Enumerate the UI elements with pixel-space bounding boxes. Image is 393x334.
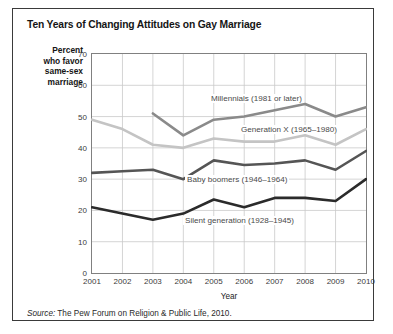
series-label-baby-boomers: Baby boomers (1946–1964) xyxy=(185,175,289,184)
x-tick-label: 2005 xyxy=(205,277,223,286)
page-title: Ten Years of Changing Attitudes on Gay M… xyxy=(27,19,261,30)
y-axis-title-line: marriage xyxy=(21,77,83,88)
source-note: Source: The Pew Forum on Religion & Publ… xyxy=(27,309,232,318)
source-text: The Pew Forum on Religion & Public Life,… xyxy=(57,309,231,318)
x-axis-title: Year xyxy=(91,292,367,301)
y-axis-title-line: same-sex xyxy=(21,66,83,77)
source-prefix: Source: xyxy=(27,309,55,318)
x-tick-label: 2009 xyxy=(327,277,345,286)
series-label-millennials: Millennials (1981 or later) xyxy=(209,94,304,103)
y-tick-label: 20 xyxy=(78,206,87,215)
y-axis-title-line: who favor xyxy=(21,56,83,67)
y-tick-label: 60 xyxy=(78,81,87,90)
x-tick-label: 2004 xyxy=(174,277,192,286)
y-axis-title-line: Percent xyxy=(21,45,83,56)
chart-lines xyxy=(91,53,367,274)
plot-area: 010203040506070 200120022003200420052006… xyxy=(91,53,367,274)
x-tick-label: 2006 xyxy=(235,277,253,286)
y-tick-label: 10 xyxy=(78,237,87,246)
series-label-generation-x: Generation X (1965–1980) xyxy=(239,125,339,134)
series-label-silent-generation: Silent generation (1928–1945) xyxy=(183,216,296,225)
y-tick-label: 40 xyxy=(78,143,87,152)
y-tick-label: 50 xyxy=(78,112,87,121)
x-tick-label: 2003 xyxy=(144,277,162,286)
y-tick-label: 30 xyxy=(78,175,87,184)
x-tick-label: 2008 xyxy=(296,277,314,286)
chart-figure: Ten Years of Changing Attitudes on Gay M… xyxy=(12,8,374,321)
y-axis-title: Percentwho favorsame-sexmarriage xyxy=(21,45,83,87)
x-tick-label: 2010 xyxy=(357,277,375,286)
x-tick-label: 2001 xyxy=(83,277,101,286)
y-tick-label: 70 xyxy=(78,50,87,59)
x-tick-label: 2002 xyxy=(114,277,132,286)
series-line xyxy=(92,179,366,220)
x-tick-label: 2007 xyxy=(266,277,284,286)
